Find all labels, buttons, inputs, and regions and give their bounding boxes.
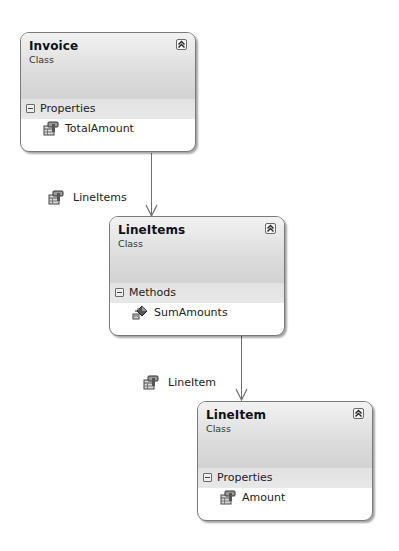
class-name: Invoice (29, 39, 78, 53)
member-name: Amount (242, 491, 285, 504)
member-name: TotalAmount (65, 122, 134, 135)
compartment-name: Properties (217, 471, 273, 484)
method-icon (132, 305, 148, 320)
class-kind: Class (206, 423, 231, 434)
association-label-lineitem[interactable]: LineItem (143, 375, 216, 390)
collapse-compartment-icon[interactable] (115, 288, 124, 297)
property-icon (143, 375, 159, 390)
member-item[interactable]: SumAmounts (110, 303, 284, 325)
arrowhead-icon (235, 388, 248, 401)
compartment-header[interactable]: Properties (198, 468, 372, 488)
class-kind: Class (29, 54, 54, 65)
class-header: LineItem Class (198, 402, 372, 468)
association-label-lineitems[interactable]: LineItems (48, 190, 127, 205)
double-chevron-up-icon (266, 224, 275, 233)
class-header: Invoice Class (21, 33, 195, 99)
collapse-button[interactable] (176, 39, 187, 50)
class-header: LineItems Class (110, 217, 284, 283)
collapse-button[interactable] (353, 408, 364, 419)
double-chevron-up-icon (354, 409, 363, 418)
class-name: LineItem (206, 408, 266, 422)
member-item[interactable]: Amount (198, 488, 372, 510)
class-kind: Class (118, 238, 143, 249)
double-chevron-up-icon (177, 40, 186, 49)
class-shape-invoice[interactable]: Invoice Class Properties TotalAmount (20, 32, 196, 152)
property-icon (220, 490, 236, 505)
compartment-name: Methods (129, 286, 176, 299)
association-name: LineItems (73, 191, 127, 204)
collapse-compartment-icon[interactable] (203, 473, 212, 482)
compartment-header[interactable]: Properties (21, 99, 195, 119)
class-name: LineItems (118, 223, 185, 237)
class-shape-lineitem[interactable]: LineItem Class Properties Amount (197, 401, 373, 521)
member-item[interactable]: TotalAmount (21, 119, 195, 141)
compartment-header[interactable]: Methods (110, 283, 284, 303)
association-name: LineItem (168, 376, 216, 389)
compartment-name: Properties (40, 102, 96, 115)
class-shape-lineitems[interactable]: LineItems Class Methods SumAmounts (109, 216, 285, 336)
property-icon (48, 190, 64, 205)
member-name: SumAmounts (154, 306, 228, 319)
property-icon (43, 121, 59, 136)
collapse-button[interactable] (265, 223, 276, 234)
collapse-compartment-icon[interactable] (26, 104, 35, 113)
